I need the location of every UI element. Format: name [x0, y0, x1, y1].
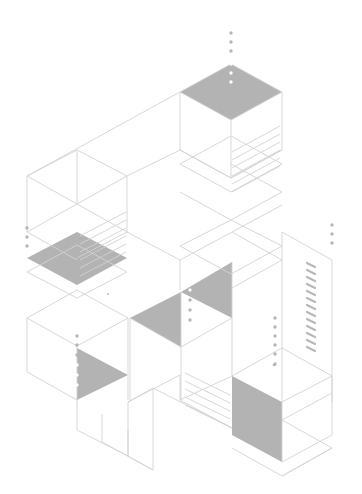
outline-line: [180, 376, 232, 400]
dot: [229, 71, 232, 74]
dot: [229, 31, 232, 34]
dot: [229, 62, 232, 65]
vent-slot: [307, 305, 315, 309]
outline-line: [77, 204, 127, 232]
outline-line: [128, 430, 153, 470]
outline-line: [27, 204, 77, 232]
dot: [273, 334, 276, 337]
vent-slot: [307, 291, 315, 295]
dot: [188, 288, 191, 291]
vent-slot: [307, 263, 315, 267]
dot: [229, 40, 232, 43]
top-cube-side-stripe: [232, 166, 280, 192]
vent-slot: [307, 319, 315, 323]
vent-slot: [307, 284, 315, 288]
vent-slot: [307, 333, 315, 337]
dot: [75, 334, 78, 337]
outline-line: [282, 448, 332, 476]
mid-triangle-left: [130, 292, 181, 347]
top-cube-side-stripe: [232, 134, 280, 160]
vent-slot: [307, 326, 315, 330]
lower-left-triangle: [77, 348, 128, 400]
vent-slot: [307, 312, 315, 316]
outline-line: [181, 318, 232, 347]
shaded-faces: [27, 64, 282, 462]
top-cube-side-stripe: [232, 150, 280, 176]
dot: [188, 298, 191, 301]
dot: [229, 80, 232, 83]
dot: [75, 343, 78, 346]
dot: [75, 373, 78, 376]
vent-slot: [307, 277, 315, 281]
dot: [330, 223, 333, 226]
dot: [75, 363, 78, 366]
vent-slot: [307, 298, 315, 302]
dot: [273, 343, 276, 346]
dot: [273, 316, 276, 319]
dot: [25, 244, 28, 247]
top-cube-side-stripe: [232, 126, 280, 152]
outline-line: [232, 205, 282, 232]
outline-line: [282, 393, 332, 420]
dot: [330, 241, 333, 244]
dot: [75, 383, 78, 386]
dot: [188, 308, 191, 311]
dot: [273, 325, 276, 328]
dot: [273, 352, 276, 355]
vent-slot: [307, 270, 315, 274]
dot: [229, 49, 232, 52]
outline-line: [27, 318, 77, 400]
dot: [25, 235, 28, 238]
dot: [273, 364, 276, 367]
vent-slot: [307, 340, 315, 344]
outline-line: [102, 414, 153, 470]
dot: [75, 353, 78, 356]
lower-right-side-face: [232, 376, 282, 462]
outline-line: [127, 232, 180, 290]
outline-line: [127, 150, 180, 176]
vent-slots: [307, 263, 315, 351]
outline-line: [282, 232, 332, 402]
outline-line: [77, 400, 128, 456]
top-cube-side-stripe: [232, 158, 280, 184]
isometric-illustration: [0, 0, 362, 494]
illustration-svg: [0, 0, 362, 494]
dot: [330, 232, 333, 235]
dot: [188, 318, 191, 321]
dot: [107, 293, 109, 295]
dot: [25, 226, 28, 229]
vent-slot: [307, 347, 315, 351]
